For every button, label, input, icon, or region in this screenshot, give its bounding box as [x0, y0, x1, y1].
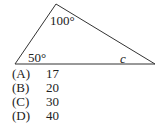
- option-value: 20: [46, 80, 59, 95]
- answer-option-b[interactable]: (B)20: [12, 81, 59, 95]
- option-letter: (B): [12, 81, 46, 95]
- angle-label-bottom-left: 50°: [28, 51, 46, 64]
- option-letter: (A): [12, 67, 46, 81]
- angle-label-bottom-right: c: [120, 52, 126, 65]
- answer-option-a[interactable]: (A)17: [12, 67, 59, 81]
- answer-option-c[interactable]: (C)30: [12, 95, 59, 109]
- angle-label-top: 100°: [50, 14, 75, 27]
- option-value: 40: [46, 108, 59, 123]
- option-letter: (D): [12, 109, 46, 123]
- option-value: 17: [46, 66, 59, 81]
- option-letter: (C): [12, 95, 46, 109]
- option-value: 30: [46, 94, 59, 109]
- triangle-figure: [0, 0, 161, 70]
- answer-option-d[interactable]: (D)40: [12, 109, 59, 123]
